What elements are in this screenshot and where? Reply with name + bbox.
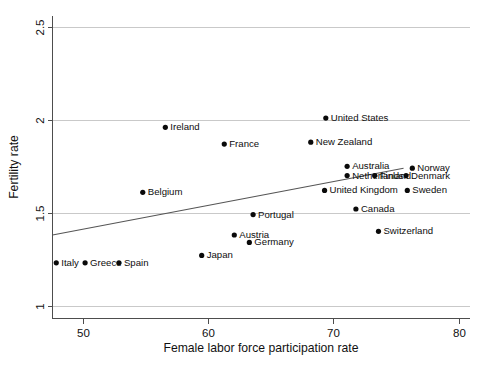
point-marker — [116, 260, 121, 265]
data-point: Belgium — [140, 186, 182, 197]
x-axis-title: Female labor force participation rate — [163, 341, 358, 355]
x-tick-label-80: 80 — [453, 327, 466, 339]
x-tick-group: 50607080 — [77, 319, 466, 339]
trend-line — [53, 168, 404, 235]
data-point: New Zealand — [308, 136, 372, 147]
point-marker — [403, 173, 408, 178]
point-label: Belgium — [148, 186, 183, 197]
axes-group — [53, 16, 471, 319]
point-label: Sweden — [412, 184, 447, 195]
point-marker — [323, 115, 328, 120]
y-tick-label-2.5: 2.5 — [34, 20, 46, 36]
data-point: Portugal — [251, 209, 294, 220]
data-point: United Kingdom — [322, 184, 398, 195]
scatter-plot-figure: 11.522.5 50607080 IrelandFranceUnited St… — [0, 0, 501, 371]
point-marker — [376, 229, 381, 234]
point-label: United Kingdom — [330, 184, 398, 195]
point-label: France — [229, 138, 259, 149]
data-point: Switzerland — [376, 225, 433, 236]
point-marker — [353, 206, 358, 211]
data-point: Italy — [54, 257, 79, 268]
point-label: New Zealand — [316, 136, 373, 147]
point-marker — [345, 173, 350, 178]
x-tick-label-50: 50 — [77, 327, 90, 339]
data-point: Canada — [353, 203, 395, 214]
point-marker — [405, 188, 410, 193]
data-point: France — [222, 138, 259, 149]
point-label: Ireland — [170, 121, 199, 132]
data-point: United States — [323, 112, 388, 123]
data-point: Greece — [82, 257, 121, 268]
data-point: Sweden — [405, 184, 447, 195]
point-marker — [140, 190, 145, 195]
data-point: Japan — [199, 249, 233, 260]
point-label: Portugal — [258, 209, 294, 220]
data-point: Denmark — [403, 170, 450, 181]
point-label: Switzerland — [383, 225, 433, 236]
trendline-group — [53, 168, 404, 235]
point-marker — [54, 260, 59, 265]
y-tick-label-1: 1 — [34, 303, 46, 309]
y-tick-label-1.5: 1.5 — [34, 206, 46, 222]
point-label: Italy — [61, 257, 79, 268]
point-marker — [199, 253, 204, 258]
point-marker — [82, 260, 87, 265]
plot-canvas: 11.522.5 50607080 IrelandFranceUnited St… — [0, 0, 501, 371]
point-marker — [163, 125, 168, 130]
x-tick-label-60: 60 — [202, 327, 215, 339]
y-tick-label-2: 2 — [34, 117, 46, 123]
point-marker — [247, 240, 252, 245]
data-point: Germany — [247, 236, 294, 247]
y-tick-group: 11.522.5 — [34, 20, 53, 310]
data-point: Ireland — [163, 121, 200, 132]
point-marker — [372, 173, 377, 178]
point-marker — [308, 140, 313, 145]
point-marker — [345, 164, 350, 169]
point-label: Denmark — [411, 170, 450, 181]
point-marker — [222, 141, 227, 146]
point-label: United States — [331, 112, 389, 123]
y-axis-title: Fertility rate — [7, 135, 21, 199]
point-marker — [232, 232, 237, 237]
point-label: Japan — [207, 249, 233, 260]
point-label: Canada — [361, 203, 395, 214]
x-tick-label-70: 70 — [327, 327, 340, 339]
point-marker — [251, 212, 256, 217]
data-points-group: IrelandFranceUnited StatesNew ZealandAus… — [54, 112, 451, 268]
point-label: Spain — [124, 257, 149, 268]
point-marker — [322, 188, 327, 193]
point-label: Germany — [254, 236, 294, 247]
